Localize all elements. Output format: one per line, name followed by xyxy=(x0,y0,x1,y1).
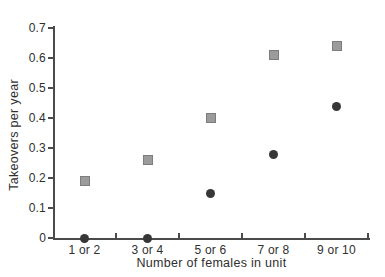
y-axis-tick xyxy=(48,57,53,59)
y-axis-tick-label: 0.6 xyxy=(16,51,46,65)
data-point-square xyxy=(269,50,279,60)
x-axis-title: Number of females in unit xyxy=(53,256,370,270)
y-axis-tick-label: 0.5 xyxy=(16,81,46,95)
data-point-circle xyxy=(332,102,341,111)
data-point-square xyxy=(206,113,216,123)
x-axis-category-label: 1 or 2 xyxy=(53,243,117,257)
y-axis-tick xyxy=(48,27,53,29)
scatter-plot-figure: Takeovers per year Number of females in … xyxy=(0,0,385,277)
x-axis-category-label: 5 or 6 xyxy=(179,243,243,257)
x-axis-tick xyxy=(178,233,180,238)
y-axis-tick-label: 0.4 xyxy=(16,111,46,125)
x-axis-tick xyxy=(241,233,243,238)
y-axis-tick-label: 0.1 xyxy=(16,201,46,215)
data-point-square xyxy=(332,41,342,51)
data-point-circle xyxy=(206,189,215,198)
y-axis-tick xyxy=(48,207,53,209)
y-axis-tick xyxy=(48,177,53,179)
x-axis-category-label: 3 or 4 xyxy=(116,243,180,257)
y-axis-tick-label: 0.3 xyxy=(16,141,46,155)
data-point-circle xyxy=(143,234,152,243)
y-axis-tick-label: 0.7 xyxy=(16,21,46,35)
data-point-circle xyxy=(269,150,278,159)
y-axis-line xyxy=(53,26,55,240)
x-axis-tick xyxy=(304,233,306,238)
x-axis-category-label: 9 or 10 xyxy=(305,243,369,257)
data-point-square xyxy=(80,176,90,186)
x-axis-tick xyxy=(115,233,117,238)
y-axis-tick-label: 0.2 xyxy=(16,171,46,185)
data-point-circle xyxy=(80,234,89,243)
x-axis-tick xyxy=(367,233,369,238)
y-axis-tick xyxy=(48,147,53,149)
x-axis-line xyxy=(53,238,370,240)
y-axis-tick xyxy=(48,87,53,89)
y-axis-tick xyxy=(48,237,53,239)
data-point-square xyxy=(143,155,153,165)
y-axis-tick xyxy=(48,117,53,119)
y-axis-tick-label: 0 xyxy=(16,231,46,245)
x-axis-category-label: 7 or 8 xyxy=(242,243,306,257)
